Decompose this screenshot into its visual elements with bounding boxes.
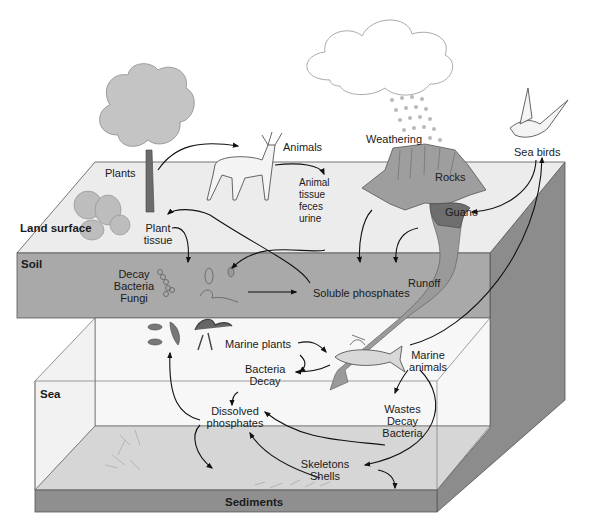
zone-label-sediments: Sediments [225, 496, 283, 508]
label-line: Fungi [110, 292, 158, 304]
zone-label-sea: Sea [40, 388, 60, 400]
seabird-icon [510, 88, 568, 137]
zone-label-land-surface: Land surface [20, 222, 92, 234]
label-animals: Animals [283, 141, 322, 153]
label-line: Bacteria [110, 280, 158, 292]
label-plant-tissue: Plant tissue [138, 222, 178, 246]
label-line: Shells [300, 470, 350, 482]
label-marine-plants: Marine plants [225, 338, 291, 350]
label-line: Marine [408, 349, 448, 361]
fungi-icon [228, 267, 234, 277]
label-wastes-decay-bacteria: Wastes Decay Bacteria [380, 403, 425, 439]
label-guano: Guano [445, 206, 478, 218]
label-line: Skeletons [300, 458, 350, 470]
label-line: Dissolved [205, 405, 265, 417]
label-marine-animals: Marine animals [408, 349, 448, 373]
label-runoff: Runoff [408, 277, 440, 289]
label-line: urine [299, 213, 330, 225]
label-rocks: Rocks [435, 171, 466, 183]
label-line: Wastes [380, 403, 425, 415]
label-decomposers: Decay Bacteria Fungi [110, 268, 158, 304]
label-line: tissue [299, 189, 330, 201]
label-line: Decay [380, 415, 425, 427]
label-weathering: Weathering [366, 133, 422, 145]
zone-label-soil: Soil [21, 258, 42, 270]
label-dissolved-phosphates: Dissolved phosphates [205, 405, 265, 429]
label-line: Animal [299, 177, 330, 189]
label-sea-birds: Sea birds [514, 146, 560, 158]
label-bacteria-decay: Bacteria Decay [245, 363, 285, 387]
label-skeletons-shells: Skeletons Shells [300, 458, 350, 482]
label-line: Plant [138, 222, 178, 234]
label-line: animals [408, 361, 448, 373]
label-line: feces [299, 201, 330, 213]
label-animal-waste: Animal tissue feces urine [299, 177, 330, 225]
label-line: Bacteria [380, 427, 425, 439]
label-line: Decay [245, 375, 285, 387]
label-line: Bacteria [245, 363, 285, 375]
diagram-canvas [0, 0, 589, 532]
cloud-icon [307, 20, 453, 95]
label-plants: Plants [105, 167, 136, 179]
label-line: phosphates [205, 417, 265, 429]
label-line: tissue [138, 234, 178, 246]
label-soluble-phosphates: Soluble phosphates [313, 287, 410, 299]
phosphorus-cycle-diagram: Land surface Soil Sea Sediments Plants A… [0, 0, 589, 532]
label-line: Decay [110, 268, 158, 280]
